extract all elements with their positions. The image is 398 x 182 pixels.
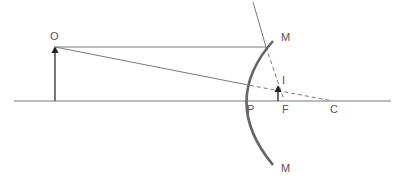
label-focus: F (282, 103, 289, 115)
ray-diagram: O M M I P F C (0, 0, 398, 182)
label-mirror-bottom: M (281, 162, 290, 174)
label-pole: P (247, 103, 254, 115)
virtual-ray-to-centre (243, 84, 333, 101)
label-mirror-top: M (281, 31, 290, 43)
ray-toward-centre (55, 47, 243, 84)
label-image: I (282, 74, 285, 86)
label-centre: C (330, 103, 338, 115)
label-object: O (50, 30, 59, 42)
reflected-ray (253, 2, 266, 47)
